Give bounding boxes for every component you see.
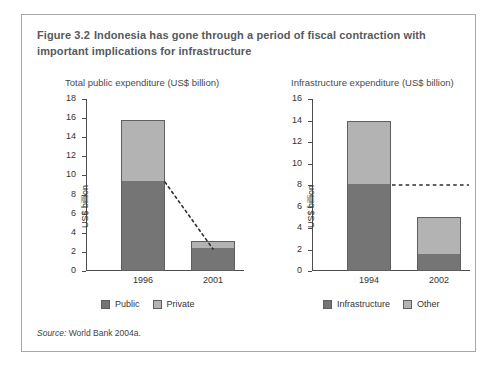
source-note: Source: World Bank 2004a. bbox=[37, 328, 141, 338]
y-tick-left-6: 6 bbox=[82, 214, 86, 215]
bar-1994-segment-infrastructure bbox=[348, 184, 390, 270]
y-tick-label-right-2: 2 bbox=[297, 244, 302, 254]
legend-item-infrastructure: Infrastructure bbox=[323, 299, 390, 309]
legend-swatch-public bbox=[101, 300, 110, 309]
y-tick-label-left-2: 2 bbox=[71, 246, 76, 256]
y-tick-label-left-8: 8 bbox=[71, 189, 76, 199]
y-tick-left-16: 16 bbox=[82, 118, 86, 119]
y-tick-left-4: 4 bbox=[82, 233, 86, 234]
y-axis-label-left: US$ billion bbox=[80, 185, 90, 228]
y-tick-label-left-16: 16 bbox=[66, 112, 76, 122]
y-tick-left-12: 12 bbox=[82, 156, 86, 157]
y-tick-right-10: 10 bbox=[308, 164, 312, 165]
bar-2001-segment-private bbox=[192, 242, 234, 248]
y-tick-right-0: 0 bbox=[308, 271, 312, 272]
legend-item-private: Private bbox=[153, 299, 195, 309]
y-tick-label-right-0: 0 bbox=[297, 265, 302, 275]
y-tick-label-right-8: 8 bbox=[297, 179, 302, 189]
plot-area-right: US$ billion 0 2 4 6 8 10 12 14 16 1994 bbox=[312, 99, 464, 271]
bar-1996-segment-private bbox=[122, 121, 164, 181]
legend-label-infrastructure: Infrastructure bbox=[337, 299, 390, 309]
y-tick-right-16: 16 bbox=[308, 99, 312, 100]
y-tick-label-right-12: 12 bbox=[292, 136, 302, 146]
y-tick-right-14: 14 bbox=[308, 121, 312, 122]
source-text: World Bank 2004a. bbox=[69, 328, 141, 338]
figure-container: Figure 3.2Indonesia has gone through a p… bbox=[21, 14, 476, 352]
y-tick-right-2: 2 bbox=[308, 250, 312, 251]
legend-right: Infrastructure Other bbox=[323, 299, 440, 309]
source-label: Source: bbox=[37, 328, 66, 338]
x-tick-label-1994: 1994 bbox=[339, 275, 399, 285]
y-tick-label-left-12: 12 bbox=[66, 150, 76, 160]
y-axis-label-wrap-left: US$ billion bbox=[86, 99, 87, 271]
y-tick-label-left-6: 6 bbox=[71, 208, 76, 218]
y-tick-right-12: 12 bbox=[308, 142, 312, 143]
x-tick-label-1996: 1996 bbox=[113, 275, 173, 285]
y-tick-left-14: 14 bbox=[82, 137, 86, 138]
chart-title-right: Infrastructure expenditure (US$ billion) bbox=[291, 77, 454, 88]
legend-label-private: Private bbox=[167, 299, 195, 309]
chart-title-left: Total public expenditure (US$ billion) bbox=[65, 77, 219, 88]
legend-item-public: Public bbox=[101, 299, 140, 309]
bar-1994[interactable] bbox=[347, 121, 391, 272]
legend-left: Public Private bbox=[101, 299, 195, 309]
bar-2002-segment-infrastructure bbox=[418, 254, 460, 270]
y-tick-label-right-4: 4 bbox=[297, 222, 302, 232]
bar-2002-segment-other bbox=[418, 218, 460, 254]
bar-2002[interactable] bbox=[417, 217, 461, 271]
x-tick-label-2002: 2002 bbox=[409, 275, 469, 285]
y-tick-label-right-6: 6 bbox=[297, 201, 302, 211]
y-tick-left-2: 2 bbox=[82, 252, 86, 253]
y-tick-label-right-16: 16 bbox=[292, 93, 302, 103]
bar-2001-segment-public bbox=[192, 248, 234, 270]
y-axis-label-wrap-right: US$ billion bbox=[312, 99, 313, 271]
bar-1996-segment-public bbox=[122, 181, 164, 270]
y-tick-label-left-10: 10 bbox=[66, 169, 76, 179]
figure-title: Figure 3.2Indonesia has gone through a p… bbox=[37, 27, 457, 59]
y-tick-left-8: 8 bbox=[82, 195, 86, 196]
y-tick-label-right-14: 14 bbox=[292, 115, 302, 125]
bar-1994-segment-other bbox=[348, 122, 390, 185]
y-tick-left-10: 10 bbox=[82, 175, 86, 176]
y-tick-right-6: 6 bbox=[308, 207, 312, 208]
y-tick-right-4: 4 bbox=[308, 228, 312, 229]
y-tick-left-18: 18 bbox=[82, 99, 86, 100]
legend-swatch-private bbox=[153, 300, 162, 309]
y-tick-label-left-0: 0 bbox=[71, 265, 76, 275]
legend-label-public: Public bbox=[115, 299, 140, 309]
chart-panel-total-public-expenditure: Total public expenditure (US$ billion) U… bbox=[39, 77, 251, 317]
bar-2001[interactable] bbox=[191, 241, 235, 271]
bar-1996[interactable] bbox=[121, 120, 165, 271]
y-tick-label-right-10: 10 bbox=[292, 158, 302, 168]
figure-title-text: Indonesia has gone through a period of f… bbox=[37, 29, 426, 57]
y-tick-label-left-4: 4 bbox=[71, 227, 76, 237]
legend-swatch-other bbox=[403, 300, 412, 309]
plot-area-left: US$ billion 0 2 4 6 8 10 12 14 16 18 199… bbox=[86, 99, 238, 271]
legend-label-other: Other bbox=[417, 299, 440, 309]
y-tick-left-0: 0 bbox=[82, 271, 86, 272]
x-tick-label-2001: 2001 bbox=[183, 275, 243, 285]
legend-item-other: Other bbox=[403, 299, 440, 309]
y-tick-label-left-18: 18 bbox=[66, 93, 76, 103]
chart-panel-infrastructure-expenditure: Infrastructure expenditure (US$ billion)… bbox=[265, 77, 477, 317]
figure-number: Figure 3.2 bbox=[37, 29, 90, 41]
legend-swatch-infrastructure bbox=[323, 300, 332, 309]
y-tick-right-8: 8 bbox=[308, 185, 312, 186]
y-tick-label-left-14: 14 bbox=[66, 131, 76, 141]
